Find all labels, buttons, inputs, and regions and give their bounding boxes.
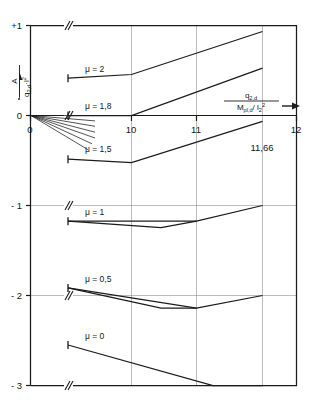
y-axis-numerator-centered: A xyxy=(10,78,19,84)
y-den-sub: 2,d xyxy=(26,85,32,93)
series-label-mu-0-5: μ = 0,5 xyxy=(85,274,112,284)
x-tick-label-0: 0 xyxy=(27,124,32,135)
x-tick-label-10: 10 xyxy=(126,124,137,135)
x-tick-label-12: 12 xyxy=(291,124,302,135)
x-tick-label-1166: 11,66 xyxy=(250,142,273,153)
y-tick-label-minus1: - 1 xyxy=(11,200,22,211)
y-axis-numerator-group: A xyxy=(8,64,19,98)
series-label-mu-2: μ = 2 xyxy=(85,64,105,74)
y-tick-label-minus2: - 2 xyxy=(11,290,22,301)
figure-container: A q2,d·l2 A q2,d Mpl,d/ l22 +1 0 - 1 - 2… xyxy=(0,0,320,417)
x-num-sub: 2,d xyxy=(249,95,257,101)
x-den-exp: 2 xyxy=(262,102,265,108)
series-label-mu-1-8: μ = 1,8 xyxy=(85,101,112,111)
chart-svg: A q2,d·l2 A q2,d Mpl,d/ l22 +1 0 - 1 - 2… xyxy=(0,0,320,417)
y-tick-label-plus1: +1 xyxy=(11,20,22,31)
series-label-mu-1-5: μ = 1,5 xyxy=(85,144,112,154)
x-tick-label-11: 11 xyxy=(191,124,201,135)
page-background xyxy=(0,0,320,417)
y-den-exp: 2 xyxy=(21,77,27,80)
y-tick-label-minus3: - 3 xyxy=(11,380,22,391)
series-label-mu-0: μ = 0 xyxy=(85,331,105,341)
x-den-sub: pl,d xyxy=(244,107,253,113)
series-label-mu-1: μ = 1 xyxy=(85,207,105,217)
y-tick-label-0: 0 xyxy=(17,110,22,121)
